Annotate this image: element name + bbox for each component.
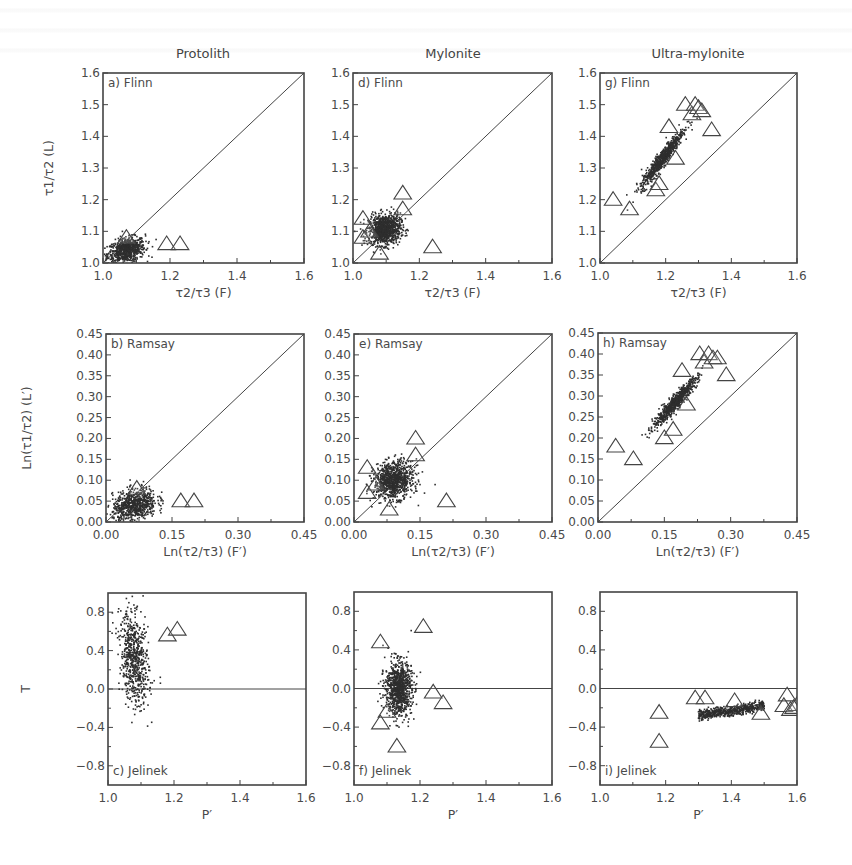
- x-tick-label: 0.45: [784, 528, 811, 542]
- reference-line: [103, 73, 304, 263]
- y-tick-label: 1.1: [578, 224, 597, 238]
- y-tick-label: 0.8: [332, 604, 351, 618]
- panel-d: 1.01.21.41.61.01.11.21.31.41.51.6d) Flin…: [331, 66, 562, 300]
- y-tick-label: 0.20: [324, 431, 351, 445]
- y-tick-label: 0.15: [568, 452, 595, 466]
- x-tick-label: 1.2: [410, 269, 429, 283]
- triangle-marker: [625, 451, 643, 465]
- y-tick-label: 0.0: [86, 682, 105, 696]
- x-axis-label: Ln(τ2/τ3) (F′): [656, 544, 740, 559]
- y-axis-label: T: [18, 685, 33, 694]
- y-tick-label: 0.35: [568, 368, 595, 382]
- y-tick-label: 1.3: [331, 161, 350, 175]
- triangle-marker: [650, 734, 668, 748]
- triangle-marker: [185, 493, 203, 507]
- x-tick-label: 0.15: [159, 528, 186, 542]
- triangle-marker: [394, 185, 412, 199]
- y-tick-label: 1.2: [81, 193, 100, 207]
- x-tick-label: 0.30: [225, 528, 252, 542]
- x-tick-label: 1.0: [344, 791, 363, 805]
- y-tick-label: 1.3: [578, 161, 597, 175]
- y-axis-label: Ln(τ1/τ2) (L′): [19, 386, 34, 469]
- panel-b: 0.000.150.300.450.000.050.100.150.200.25…: [19, 327, 317, 559]
- y-tick-label: 0.40: [324, 348, 351, 362]
- y-tick-label: 0.05: [568, 494, 595, 508]
- triangle-marker: [380, 501, 398, 515]
- figure-canvas: 1.01.21.41.61.01.11.21.31.41.51.6a) Flin…: [0, 0, 852, 865]
- x-tick-label: 1.0: [343, 269, 362, 283]
- x-tick-label: 0.30: [473, 528, 500, 542]
- panel-label: b) Ramsay: [111, 337, 175, 351]
- y-tick-label: 1.5: [578, 98, 597, 112]
- panel-label: g) Flinn: [605, 76, 650, 90]
- triangle-marker: [415, 619, 433, 633]
- y-tick-label: −0.8: [76, 759, 105, 773]
- y-tick-label: 1.6: [331, 66, 350, 80]
- y-tick-label: 0.10: [324, 473, 351, 487]
- y-tick-label: 0.05: [76, 494, 103, 508]
- y-tick-label: 0.45: [76, 327, 103, 341]
- y-tick-label: 0.25: [568, 410, 595, 424]
- x-tick-label: 1.4: [722, 269, 741, 283]
- y-axis-label: τ1/τ2 (L): [41, 140, 56, 196]
- y-tick-label: 1.4: [331, 129, 350, 143]
- panel-label: i) Jelinek: [605, 764, 656, 778]
- triangle-marker: [660, 119, 678, 133]
- panel-g: 1.01.21.41.61.01.11.21.31.41.51.6g) Flin…: [578, 66, 807, 300]
- y-tick-label: −0.8: [322, 759, 351, 773]
- scatter-cloud: [111, 595, 161, 727]
- x-tick-label: 1.2: [656, 269, 675, 283]
- panel-e: 0.000.150.300.450.000.050.100.150.200.25…: [324, 327, 565, 559]
- x-tick-label: 1.2: [410, 791, 429, 805]
- x-tick-label: 0.00: [341, 528, 368, 542]
- x-tick-label: 1.6: [787, 791, 806, 805]
- y-tick-label: 1.1: [331, 224, 350, 238]
- panel-label: c) Jelinek: [113, 764, 168, 778]
- y-tick-label: 0.0: [332, 682, 351, 696]
- x-tick-label: 1.4: [230, 791, 249, 805]
- x-tick-label: 0.30: [717, 528, 744, 542]
- y-tick-label: 0.05: [324, 494, 351, 508]
- y-tick-label: 1.0: [578, 256, 597, 270]
- y-tick-label: −0.8: [568, 759, 597, 773]
- panel-label: h) Ramsay: [603, 336, 667, 350]
- triangle-markers: [650, 687, 806, 747]
- y-tick-label: 0.0: [578, 682, 597, 696]
- panel-label: a) Flinn: [108, 76, 153, 90]
- y-tick-label: 1.4: [81, 129, 100, 143]
- y-tick-label: 0.25: [324, 411, 351, 425]
- y-tick-label: 0.35: [324, 369, 351, 383]
- y-tick-label: 0.25: [76, 411, 103, 425]
- triangle-marker: [703, 122, 721, 136]
- y-tick-label: 1.3: [81, 161, 100, 175]
- y-tick-label: 0.40: [76, 348, 103, 362]
- x-tick-label: 1.6: [787, 269, 806, 283]
- triangle-marker: [604, 192, 622, 206]
- x-tick-label: 1.6: [542, 791, 561, 805]
- y-tick-label: 0.20: [76, 431, 103, 445]
- y-tick-label: 0.30: [324, 390, 351, 404]
- panel-label: e) Ramsay: [359, 337, 423, 351]
- y-tick-label: 1.4: [578, 129, 597, 143]
- y-tick-label: 0.00: [568, 515, 595, 529]
- x-tick-label: 1.6: [542, 269, 561, 283]
- y-tick-label: 0.15: [76, 452, 103, 466]
- y-tick-label: 0.10: [76, 473, 103, 487]
- panel-a: 1.01.21.41.61.01.11.21.31.41.51.6a) Flin…: [41, 66, 314, 300]
- x-tick-label: 0.45: [539, 528, 566, 542]
- y-tick-label: 0.40: [568, 347, 595, 361]
- triangle-marker: [407, 430, 425, 444]
- x-axis-label: Ln(τ2/τ3) (F′): [411, 544, 495, 559]
- triangle-markers: [354, 185, 441, 259]
- triangle-marker: [388, 738, 406, 752]
- y-tick-label: 1.2: [578, 193, 597, 207]
- triangle-marker: [664, 422, 682, 436]
- y-tick-label: 0.30: [76, 390, 103, 404]
- y-tick-label: 0.00: [76, 515, 103, 529]
- x-tick-label: 1.0: [98, 791, 117, 805]
- triangle-marker: [778, 687, 796, 701]
- x-tick-label: 1.2: [164, 791, 183, 805]
- x-tick-label: 1.2: [160, 269, 179, 283]
- triangle-marker: [650, 705, 668, 719]
- y-tick-label: 0.45: [324, 327, 351, 341]
